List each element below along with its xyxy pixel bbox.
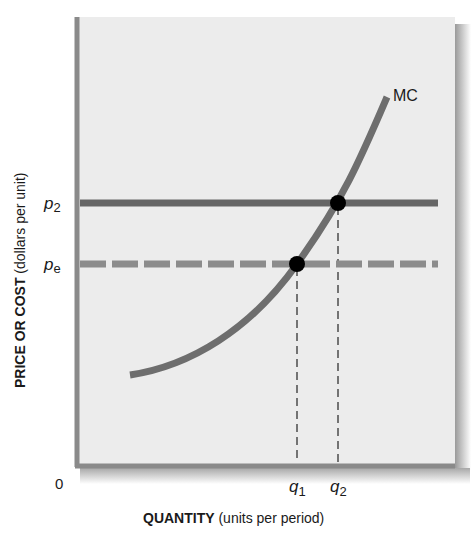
x-axis-title: QUANTITY (units per period) bbox=[143, 510, 324, 526]
mc-chart: MC p2 pe 0 q1 q2 QUANTITY (units per per… bbox=[0, 0, 471, 535]
p2-tick-label: p2 bbox=[43, 194, 61, 215]
equilibrium-point-pe bbox=[289, 256, 305, 272]
origin-label: 0 bbox=[55, 475, 63, 492]
panel-shadow-right bbox=[455, 24, 471, 470]
plot-panel bbox=[77, 17, 455, 467]
equilibrium-point-p2 bbox=[330, 195, 346, 211]
y-axis-title: PRICE OR COST (dollars per unit) bbox=[12, 172, 28, 388]
panel-shadow-bottom bbox=[80, 468, 470, 484]
pe-tick-label: pe bbox=[43, 255, 61, 276]
mc-label: MC bbox=[393, 87, 418, 104]
